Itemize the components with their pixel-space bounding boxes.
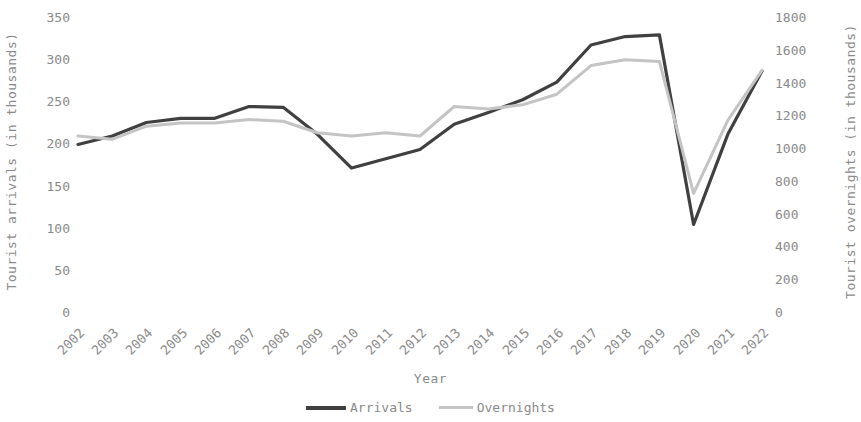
y-axis-left-title: Tourist arrivals (in thousands) [0,0,22,322]
legend-item-arrivals[interactable]: Arrivals [306,400,413,415]
y-axis-left-tick-label: 200 [26,136,70,151]
y-axis-right-tick-label: 1200 [775,108,821,123]
legend-item-overnights[interactable]: Overnights [439,400,555,415]
y-axis-right-tick-label: 800 [775,174,821,189]
series-lines [78,35,762,225]
legend-swatch-icon [439,406,473,409]
y-axis-right-tick-label: 1600 [775,43,821,58]
legend-label: Arrivals [350,400,413,415]
legend-label: Overnights [477,400,555,415]
y-axis-right-tick-label: 0 [775,305,821,320]
y-axis-left-title-text: Tourist arrivals (in thousands) [4,32,19,290]
x-axis-title: Year [0,371,861,386]
y-axis-right-title: Tourist overnights (in thousands) [839,0,861,322]
series-line-overnights [78,60,762,194]
legend-swatch-icon [306,406,346,410]
y-axis-right-tick-label: 1400 [775,76,821,91]
y-axis-right-tick-label: 600 [775,207,821,222]
y-axis-left-tick-label: 300 [26,52,70,67]
y-axis-right-tick-label: 1000 [775,141,821,156]
y-axis-right-title-text: Tourist overnights (in thousands) [843,24,858,299]
tourism-line-chart: Tourist arrivals (in thousands) Tourist … [0,0,861,422]
y-axis-right-tick-label: 400 [775,239,821,254]
y-axis-left-tick-label: 0 [26,305,70,320]
y-axis-left-tick-label: 50 [26,263,70,278]
y-axis-left-tick-label: 250 [26,94,70,109]
y-axis-left-tick-label: 150 [26,179,70,194]
chart-legend: ArrivalsOvernights [0,400,861,415]
y-axis-right-tick-label: 200 [775,272,821,287]
y-axis-right-tick-label: 1800 [775,10,821,25]
y-axis-left-tick-label: 100 [26,221,70,236]
y-axis-left-tick-label: 350 [26,10,70,25]
